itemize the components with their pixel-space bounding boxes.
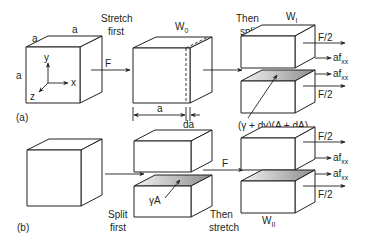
wi-title: WI: [286, 11, 297, 24]
result-upper-block-b: [241, 127, 315, 170]
result-lower-block-a: [241, 70, 315, 113]
axis-z-label: z: [30, 91, 35, 102]
upper-traction-label-b: afxx: [333, 152, 349, 165]
initial-cube-b: [27, 139, 102, 206]
lower-force-label: F/2: [318, 89, 333, 100]
step-stretch-first-line1: Stretch: [101, 13, 133, 24]
result-upper-block-a: [241, 25, 315, 68]
panel-b-label: (b): [17, 222, 29, 233]
panel-b: (b) Split first γA F Then stretch F/2: [17, 127, 349, 233]
edge-label-a-top-left: a: [32, 33, 38, 44]
result-lower-block-b: [241, 170, 315, 213]
stretch-split-diagram: a a a y x z (a) Stretch first F W0: [0, 0, 366, 246]
split-lower-block-b: [134, 175, 212, 217]
upper-force-label-b: F/2: [318, 131, 333, 142]
lower-force-label-b: F/2: [318, 189, 333, 200]
stretched-cube: [133, 37, 212, 103]
upper-traction-label: afxx: [333, 52, 349, 65]
increment-label-da: da: [183, 119, 195, 130]
upper-force-label: F/2: [318, 32, 333, 43]
width-label-a: a: [157, 103, 163, 114]
w0-title: W0: [175, 21, 188, 34]
step-then-split-line1: Then: [236, 13, 259, 24]
step-then-stretch-line1: Then: [210, 209, 233, 220]
axis-y-label: y: [44, 52, 49, 63]
lower-traction-label: afxx: [333, 68, 349, 81]
panel-a: a a a y x z (a) Stretch first F W0: [16, 11, 349, 131]
wii-title: WII: [262, 215, 275, 228]
edge-label-a-top-right: a: [72, 24, 78, 35]
step-stretch-first-line2: first: [108, 26, 124, 37]
force-label-f-b: F: [222, 158, 228, 169]
initial-cube: [26, 36, 102, 103]
surface-energy-label-b: γA: [149, 195, 161, 206]
edge-label-a-left: a: [16, 70, 22, 81]
axis-x-label: x: [71, 77, 76, 88]
panel-a-label: (a): [16, 112, 28, 123]
step-split-first-line2: first: [110, 222, 126, 233]
split-upper-block-b: [134, 130, 212, 172]
force-label-f: F: [105, 58, 111, 69]
step-then-stretch-line2: stretch: [209, 222, 239, 233]
lower-traction-label-b: afxx: [333, 168, 349, 181]
step-split-first-line1: Split: [108, 209, 128, 220]
